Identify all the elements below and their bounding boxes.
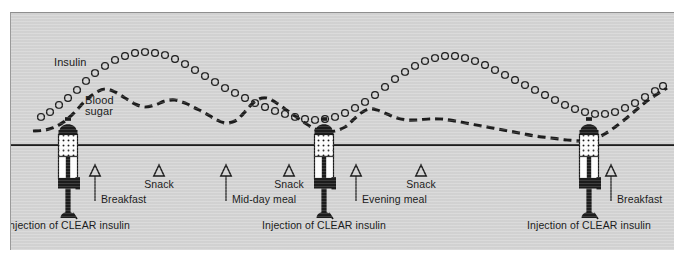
syringe-finger-grip	[332, 177, 337, 190]
insulin-marker	[152, 50, 159, 57]
injection-label-injection-1: Injection of CLEAR insulin	[10, 220, 130, 231]
syringe-collar	[315, 130, 334, 135]
insulin-marker	[562, 102, 569, 109]
event-label-evening: Evening meal	[362, 194, 427, 205]
insulin-marker	[342, 110, 349, 117]
insulin-marker	[492, 67, 499, 74]
syringe-plunger-rod	[66, 157, 70, 179]
insulin-marker	[612, 109, 619, 116]
syringe-finger-grip	[76, 177, 81, 190]
insulin-marker	[622, 105, 629, 112]
insulin-marker	[532, 87, 539, 94]
insulin-marker	[372, 92, 379, 99]
insulin-marker	[472, 58, 479, 65]
insulin-marker	[38, 114, 45, 121]
insulin-marker	[92, 70, 99, 77]
syringe-collar	[580, 130, 599, 135]
insulin-marker	[462, 55, 469, 62]
event-triangle-marker	[90, 165, 100, 176]
blood-sugar-dashed-path	[33, 88, 667, 141]
syringe-injection-3	[579, 117, 601, 219]
insulin-marker	[56, 102, 63, 109]
insulin-marker	[65, 95, 72, 102]
syringe-cap	[316, 124, 333, 131]
event-label-midday: Mid-day meal	[232, 194, 296, 205]
insulin-marker	[242, 95, 249, 102]
syringe-barrel-stippled	[315, 135, 334, 157]
injection-label-injection-3: Injection of CLEAR insulin	[527, 220, 651, 231]
insulin-marker	[332, 114, 339, 121]
insulin-marker	[592, 111, 599, 118]
insulin-marker	[432, 55, 439, 62]
insulin-marker	[102, 63, 109, 70]
injection-label-injection-2: Injection of CLEAR insulin	[262, 220, 386, 231]
insulin-marker	[382, 84, 389, 91]
syringe-plunger-head	[579, 178, 599, 189]
insulin-marker	[502, 72, 509, 79]
insulin-marker	[272, 108, 279, 115]
insulin-curve-label: Insulin	[54, 57, 87, 69]
insulin-marker	[402, 69, 409, 76]
insulin-marker	[312, 117, 319, 124]
event-label-breakfast-1: Breakfast	[101, 194, 146, 205]
syringe-stem	[65, 189, 70, 215]
event-triangle-marker	[284, 165, 294, 176]
event-label-snack-2: Snack	[274, 179, 304, 190]
syringe-needle	[65, 117, 71, 121]
syringe-stem	[586, 189, 591, 215]
insulin-marker	[192, 67, 199, 74]
event-triangle-marker	[351, 165, 361, 176]
syringe-plunger-head	[58, 178, 78, 189]
syringe-barrel-stippled	[59, 135, 78, 157]
insulin-marker	[232, 90, 239, 97]
insulin-marker	[83, 78, 90, 85]
event-triangle-marker	[416, 165, 426, 176]
insulin-marker	[172, 56, 179, 63]
blood-sugar-label-line-2: sugar	[85, 106, 114, 117]
insulin-marker	[392, 76, 399, 83]
event-label-snack-3: Snack	[406, 179, 436, 190]
insulin-curve	[38, 49, 667, 124]
syringe-barrel-stippled	[580, 135, 599, 157]
blood-sugar-curve	[33, 88, 667, 141]
insulin-marker	[132, 50, 139, 57]
diagram-svg	[11, 13, 674, 250]
insulin-marker	[162, 52, 169, 59]
syringe-collar	[59, 130, 78, 135]
insulin-marker	[552, 97, 559, 104]
syringe-cap	[60, 124, 77, 131]
insulin-marker	[582, 109, 589, 116]
syringe-injection-1	[58, 117, 80, 219]
insulin-marker	[182, 61, 189, 68]
insulin-marker	[602, 111, 609, 118]
event-triangle-marker	[606, 165, 616, 176]
syringe-needle	[586, 117, 592, 121]
syringe-injection-2	[314, 117, 336, 219]
diagram-canvas	[11, 13, 674, 250]
blood-sugar-curve-label: Blood sugar	[85, 95, 114, 117]
insulin-marker	[542, 92, 549, 99]
insulin-marker	[422, 58, 429, 65]
event-label-snack-1: Snack	[144, 179, 174, 190]
insulin-marker	[442, 53, 449, 60]
insulin-marker	[362, 99, 369, 106]
syringe-plunger-head	[314, 178, 334, 189]
insulin-marker	[142, 49, 149, 56]
syringe-plunger-rod	[587, 157, 591, 179]
insulin-marker	[572, 106, 579, 113]
insulin-marker	[74, 87, 81, 94]
figure-root: Insulin Blood sugar BreakfastSnackMid-da…	[0, 0, 683, 265]
syringe-finger-grip	[597, 177, 602, 190]
insulin-marker	[352, 105, 359, 112]
insulin-marker	[452, 53, 459, 60]
insulin-marker	[412, 63, 419, 70]
diagram-panel: Insulin Blood sugar BreakfastSnackMid-da…	[10, 12, 674, 250]
insulin-marker	[112, 57, 119, 64]
event-triangle-marker	[221, 165, 231, 176]
insulin-marker	[522, 82, 529, 89]
syringe-stem	[321, 189, 326, 215]
insulin-marker	[122, 53, 129, 60]
insulin-marker	[212, 79, 219, 86]
insulin-marker	[262, 104, 269, 111]
syringe-needle	[321, 117, 327, 121]
